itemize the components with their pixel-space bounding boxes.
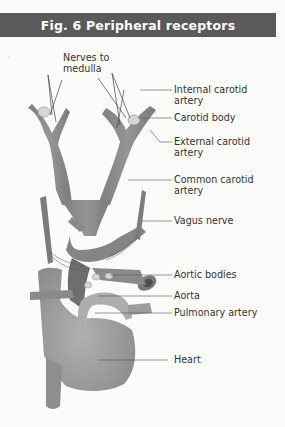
- label-external-carotid-artery: External carotid artery: [174, 136, 250, 158]
- label-common-carotid-artery: Common carotid artery: [174, 174, 254, 196]
- stray-mark: ': [8, 54, 10, 61]
- label-internal-carotid-artery: Internal carotid artery: [174, 84, 247, 106]
- label-heart: Heart: [174, 354, 201, 365]
- peripheral-receptors-diagram: ': [0, 0, 285, 427]
- left-carotid-artery: [28, 104, 72, 205]
- label-aortic-bodies: Aortic bodies: [174, 269, 237, 280]
- label-vagus-nerve: Vagus nerve: [174, 215, 233, 226]
- label-nerves-to-medulla: Nerves to medulla: [63, 52, 109, 74]
- heart: [30, 268, 152, 409]
- label-carotid-body: Carotid body: [174, 112, 235, 123]
- label-aorta: Aorta: [174, 290, 200, 301]
- right-carotid-body: [128, 115, 140, 125]
- label-pulmonary-artery: Pulmonary artery: [174, 307, 257, 318]
- left-carotid-body: [38, 107, 50, 117]
- right-carotid-artery: [98, 106, 156, 205]
- left-vagus-nerve: [40, 196, 53, 264]
